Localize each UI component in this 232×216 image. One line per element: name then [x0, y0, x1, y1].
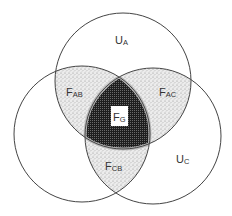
label-ua: UA [115, 34, 128, 47]
label-uc: UC [176, 153, 190, 166]
venn-diagram: UA UC FAB FAC FCB FG [0, 0, 232, 216]
